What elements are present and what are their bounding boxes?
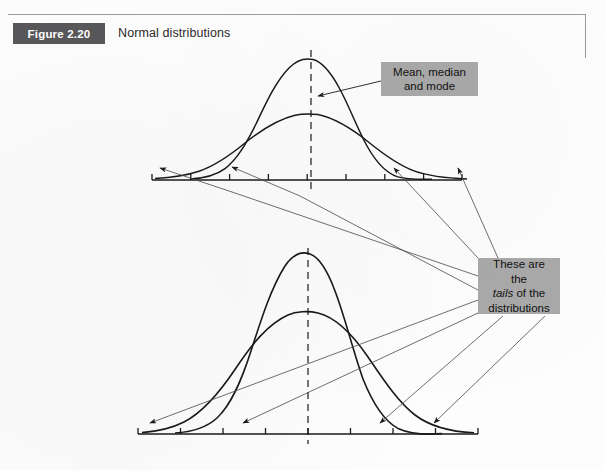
chart-bottom-tail-arrow-left-outer [150,300,478,423]
figure-drawing-canvas [0,0,605,470]
callout-mean-median-mode: Mean, median and mode [381,62,478,96]
chart-top-tail-arrow-right-outer [458,168,498,258]
chart-bottom-tail-arrow-right-inner [380,316,503,423]
callout-tails-emphasis: tails [493,287,513,299]
leader-tails-from-top-left-outer [232,192,478,276]
leader-tails-from-top-left-inner [300,196,478,290]
chart-top-tail-arrow-left-inner [232,167,300,196]
leader-mean-callout [318,81,381,96]
chart-top-tail-arrow-right-inner [394,168,478,258]
callout-tails-line1: These are the [484,257,554,286]
callout-tails-line3: distributions [488,301,549,316]
callout-mean-line2: and mode [404,79,455,94]
chart-bottom-tail-arrow-right-outer [434,316,545,423]
callout-tails-line2-rest: of the [513,287,545,299]
callout-tails: These are the tails of the distributions [478,258,560,314]
callout-tails-line2: tails of the [493,286,545,301]
callout-mean-line1: Mean, median [393,65,466,80]
